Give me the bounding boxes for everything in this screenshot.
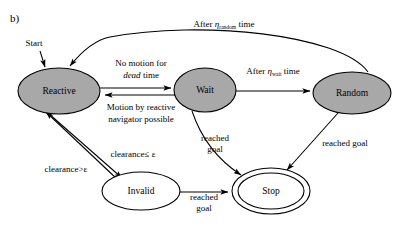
svg-text:After ηwait time: After ηwait time [246, 66, 299, 77]
svg-text:After ηrandom time: After ηrandom time [194, 19, 255, 30]
node-random[interactable]: Random [313, 72, 391, 114]
invalid-stop-line2: goal [196, 203, 212, 213]
dead-italic: dead [123, 70, 141, 80]
after-wait-post: time [281, 66, 299, 76]
no-motion-line1: No motion for [115, 58, 167, 68]
node-stop[interactable]: Stop [232, 168, 310, 214]
node-wait-label: Wait [196, 85, 214, 95]
wait-stop-line2: goal [207, 144, 223, 154]
motion-line2: navigator possible [108, 114, 174, 124]
figure-canvas: Reactive Wait Random Invalid Stop b) Sta… [0, 0, 401, 226]
panel-label: b) [10, 12, 20, 25]
node-stop-label: Stop [262, 186, 280, 196]
edge-label-invalid-reactive: clearance>ε [45, 164, 88, 174]
node-random-label: Random [336, 88, 369, 98]
eta-subscript-wait: wait [272, 71, 282, 77]
after-random-pre: After [194, 19, 215, 29]
dead-rest: time [141, 70, 159, 80]
edge-label-wait-stop: reached goal [201, 133, 229, 154]
after-wait-pre: After [246, 66, 267, 76]
after-random-post: time [236, 19, 254, 29]
node-invalid[interactable]: Invalid [102, 172, 180, 210]
invalid-stop-line1: reached [190, 192, 218, 202]
node-reactive-label: Reactive [42, 86, 75, 96]
edge-label-reactive-invalid: clearance≤ ε [111, 149, 156, 159]
motion-line1: Motion by reactive [107, 102, 175, 112]
edge-label-random-stop: reached goal [322, 138, 368, 148]
edge-wait-stop [192, 111, 241, 175]
svg-text:dead time: dead time [123, 70, 159, 80]
edge-start-reactive [40, 51, 45, 67]
edge-label-wait-random: After ηwait time [246, 66, 299, 77]
wait-stop-line1: reached [201, 133, 229, 143]
node-reactive[interactable]: Reactive [18, 68, 100, 114]
node-wait[interactable]: Wait [174, 68, 236, 112]
edge-label-reactive-wait: No motion for dead time [115, 58, 167, 80]
edge-label-invalid-stop: reached goal [190, 192, 218, 213]
state-diagram-svg: Reactive Wait Random Invalid Stop b) Sta… [0, 0, 401, 226]
start-label: Start [26, 38, 43, 48]
node-invalid-label: Invalid [128, 186, 155, 196]
edge-label-wait-reactive: Motion by reactive navigator possible [107, 102, 175, 124]
eta-subscript-random: random [219, 24, 237, 30]
edge-label-random-reactive: After ηrandom time [194, 19, 255, 30]
